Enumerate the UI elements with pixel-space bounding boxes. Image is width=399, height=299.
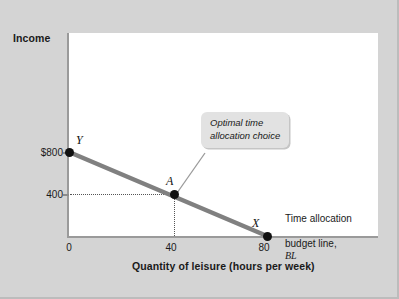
guide-line-vertical bbox=[174, 196, 175, 236]
budget-line-annotation-line2: budget line, bbox=[285, 238, 337, 249]
data-point-label-x: X bbox=[252, 216, 259, 231]
y-tick-mark-400 bbox=[63, 194, 69, 196]
data-point-x bbox=[263, 232, 272, 241]
budget-line-annotation-line1: Time allocation bbox=[285, 213, 352, 224]
y-axis-line bbox=[67, 33, 69, 238]
x-tick-label-40: 40 bbox=[158, 242, 184, 253]
optimal-choice-callout-text: Optimal time allocation choice bbox=[210, 117, 280, 142]
y-tick-label-400: 400 bbox=[18, 189, 63, 200]
guide-line-horizontal bbox=[70, 194, 174, 195]
data-point-y bbox=[65, 148, 74, 157]
y-axis-title: Income bbox=[13, 32, 50, 44]
x-tick-label-0: 0 bbox=[56, 242, 82, 253]
optimal-choice-callout: Optimal time allocation choice bbox=[201, 112, 289, 148]
economics-figure: Income Quantity of leisure (hours per we… bbox=[0, 0, 399, 299]
x-tick-label-80: 80 bbox=[251, 242, 277, 253]
data-point-label-y: Y bbox=[76, 133, 83, 148]
budget-line-annotation-emphasis: BL bbox=[285, 250, 297, 261]
data-point-a bbox=[170, 190, 179, 199]
data-point-label-a: A bbox=[166, 174, 173, 189]
y-tick-label-800: $800 bbox=[18, 147, 63, 158]
budget-line-annotation: Time allocation budget line, BL bbox=[285, 200, 352, 263]
